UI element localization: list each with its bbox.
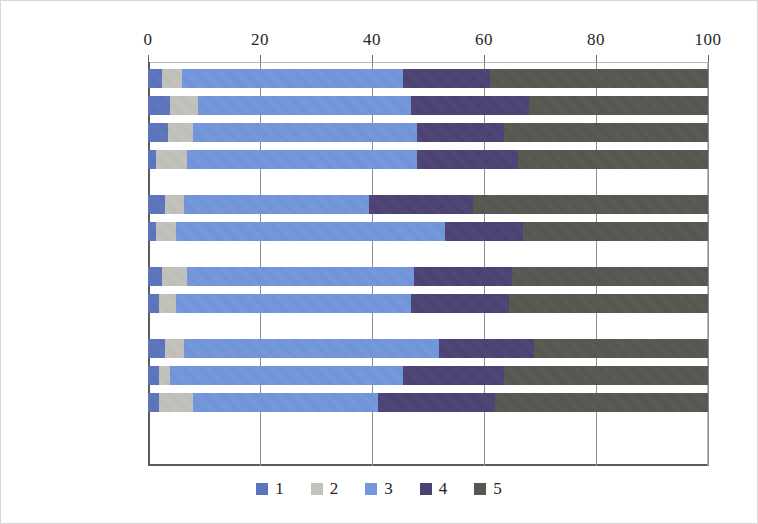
- bar-segment-5: [490, 69, 708, 88]
- bar-segment-2: [156, 222, 176, 241]
- x-tick-label-20: 20: [251, 30, 269, 50]
- bar-segment-3: [184, 195, 369, 214]
- stacked-bar: [148, 339, 708, 358]
- bar-segment-2: [159, 294, 176, 313]
- stacked-bar: [148, 123, 708, 142]
- bar-row: 女性: [148, 222, 708, 241]
- bar-segment-1: [148, 222, 156, 241]
- bar-segment-4: [411, 96, 529, 115]
- x-tick-mark-80: [596, 55, 597, 62]
- bar-row: 30—49岁: [148, 96, 708, 115]
- legend-swatch-2: [311, 483, 323, 495]
- bar-segment-1: [148, 123, 168, 142]
- stacked-bar: [148, 294, 708, 313]
- bar-segment-1: [148, 339, 165, 358]
- bar-segment-2: [170, 96, 198, 115]
- bar-segment-1: [148, 150, 156, 169]
- bar-segment-3: [193, 393, 378, 412]
- plot-area: 18—29岁30—49岁50—64岁65+岁男性女性城市农村初等教育中等教育高等…: [148, 62, 708, 466]
- legend-label-2: 2: [330, 480, 339, 497]
- legend-item-2[interactable]: 2: [311, 480, 339, 497]
- legend-item-5[interactable]: 5: [474, 480, 502, 497]
- bar-segment-4: [411, 294, 509, 313]
- bar-segment-3: [187, 267, 414, 286]
- bar-segment-3: [176, 294, 411, 313]
- x-tick-mark-40: [372, 55, 373, 62]
- bar-segment-3: [193, 123, 417, 142]
- bar-segment-1: [148, 267, 162, 286]
- x-tick-mark-20: [260, 55, 261, 62]
- stacked-bar: [148, 96, 708, 115]
- stacked-bar: [148, 393, 708, 412]
- stacked-bar: [148, 267, 708, 286]
- bar-segment-5: [504, 123, 708, 142]
- bar-segment-2: [162, 69, 182, 88]
- bar-segment-5: [534, 339, 708, 358]
- stacked-bar: [148, 366, 708, 385]
- stacked-bar: [148, 195, 708, 214]
- bar-row: 中等教育: [148, 366, 708, 385]
- legend: 12345: [0, 480, 758, 497]
- legend-swatch-4: [420, 483, 432, 495]
- bar-row: 高等教育: [148, 393, 708, 412]
- stacked-bar-chart: 020406080100 18—29岁30—49岁50—64岁65+岁男性女性城…: [0, 0, 758, 524]
- legend-swatch-1: [256, 483, 268, 495]
- bar-segment-1: [148, 96, 170, 115]
- bar-segment-5: [529, 96, 708, 115]
- x-tick-label-0: 0: [144, 30, 153, 50]
- legend-swatch-3: [365, 483, 377, 495]
- bar-segment-4: [403, 366, 504, 385]
- bar-row: 男性: [148, 195, 708, 214]
- bar-row: 城市: [148, 267, 708, 286]
- stacked-bar: [148, 150, 708, 169]
- x-tick-mark-0: [148, 55, 149, 62]
- bar-segment-5: [509, 294, 708, 313]
- bar-segment-1: [148, 294, 159, 313]
- bar-segment-5: [512, 267, 708, 286]
- bar-segment-2: [165, 339, 185, 358]
- bar-row: 初等教育: [148, 339, 708, 358]
- bar-segment-3: [182, 69, 403, 88]
- bar-segment-1: [148, 195, 165, 214]
- bar-segment-4: [445, 222, 523, 241]
- x-tick-mark-60: [484, 55, 485, 62]
- bar-segment-4: [414, 267, 512, 286]
- legend-item-1[interactable]: 1: [256, 480, 284, 497]
- bar-segment-1: [148, 69, 162, 88]
- bar-row: 农村: [148, 294, 708, 313]
- bar-segment-2: [168, 123, 193, 142]
- legend-swatch-5: [474, 483, 486, 495]
- x-tick-mark-100: [708, 55, 709, 62]
- bar-segment-4: [439, 339, 534, 358]
- bar-segment-1: [148, 393, 159, 412]
- bar-segment-4: [417, 123, 504, 142]
- bar-segment-1: [148, 366, 159, 385]
- bar-segment-2: [162, 267, 187, 286]
- bar-segment-3: [170, 366, 402, 385]
- stacked-bar: [148, 69, 708, 88]
- bar-segment-4: [403, 69, 490, 88]
- x-axis: 020406080100: [148, 30, 708, 62]
- bar-segment-3: [187, 150, 417, 169]
- bar-segment-5: [473, 195, 708, 214]
- x-tick-label-40: 40: [363, 30, 381, 50]
- bar-segment-4: [369, 195, 473, 214]
- legend-item-4[interactable]: 4: [420, 480, 448, 497]
- bar-segment-3: [198, 96, 411, 115]
- bar-segment-5: [504, 366, 708, 385]
- bar-row: 50—64岁: [148, 123, 708, 142]
- legend-label-4: 4: [439, 480, 448, 497]
- x-tick-label-80: 80: [587, 30, 605, 50]
- bar-segment-5: [495, 393, 708, 412]
- bar-segment-2: [156, 150, 187, 169]
- legend-label-3: 3: [384, 480, 393, 497]
- bar-segment-5: [518, 150, 708, 169]
- bar-segment-3: [176, 222, 445, 241]
- bar-segment-2: [159, 393, 193, 412]
- bar-row: 18—29岁: [148, 69, 708, 88]
- bar-row: 65+岁: [148, 150, 708, 169]
- legend-item-3[interactable]: 3: [365, 480, 393, 497]
- x-tick-label-60: 60: [475, 30, 493, 50]
- bar-segment-4: [378, 393, 496, 412]
- bar-segment-3: [184, 339, 439, 358]
